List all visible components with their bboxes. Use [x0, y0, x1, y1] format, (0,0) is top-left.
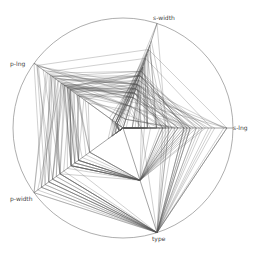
data-line [34, 58, 212, 232]
axis-label-p-lng: p-lng [10, 60, 25, 67]
axis-line-type [123, 128, 157, 233]
axes [34, 23, 233, 232]
plot-area [0, 0, 258, 255]
data-line [73, 89, 187, 181]
axis-label-s-lng: s-lng [233, 124, 248, 131]
axis-label-p-width: p-width [10, 195, 33, 202]
radar-chart: s-width p-lng s-lng p-width type [0, 0, 258, 255]
axis-label-s-width: s-width [153, 14, 175, 21]
data-line [56, 83, 169, 233]
axis-label-type: type [152, 235, 165, 242]
